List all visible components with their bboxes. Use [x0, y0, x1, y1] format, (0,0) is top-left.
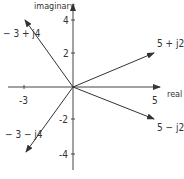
vector-5-minus-j2 [73, 87, 154, 119]
complex-plane-diagram: imaginary real -3 5 4 2 -2 -4 − 3 + j4 5… [0, 0, 184, 179]
y-axis-label: imaginary [34, 1, 75, 11]
x-tick-label-neg3: -3 [19, 95, 28, 106]
vector-label-5-plus-j2: 5 + j2 [157, 38, 184, 49]
y-tick-label-2: 2 [63, 48, 69, 59]
y-tick-label-neg4: -4 [59, 149, 68, 160]
vector-label-neg3-plus-j4: − 3 + j4 [3, 28, 41, 39]
vector-label-5-minus-j2: 5 − j2 [157, 122, 184, 133]
vector-label-neg3-minus-j4: − 3 − j4 [5, 129, 43, 140]
y-tick-label-4: 4 [63, 15, 69, 26]
y-tick-label-neg2: -2 [59, 114, 68, 125]
x-axis-label: real [167, 89, 182, 99]
vector-5-plus-j2 [73, 53, 154, 87]
x-tick-label-5: 5 [152, 95, 158, 106]
